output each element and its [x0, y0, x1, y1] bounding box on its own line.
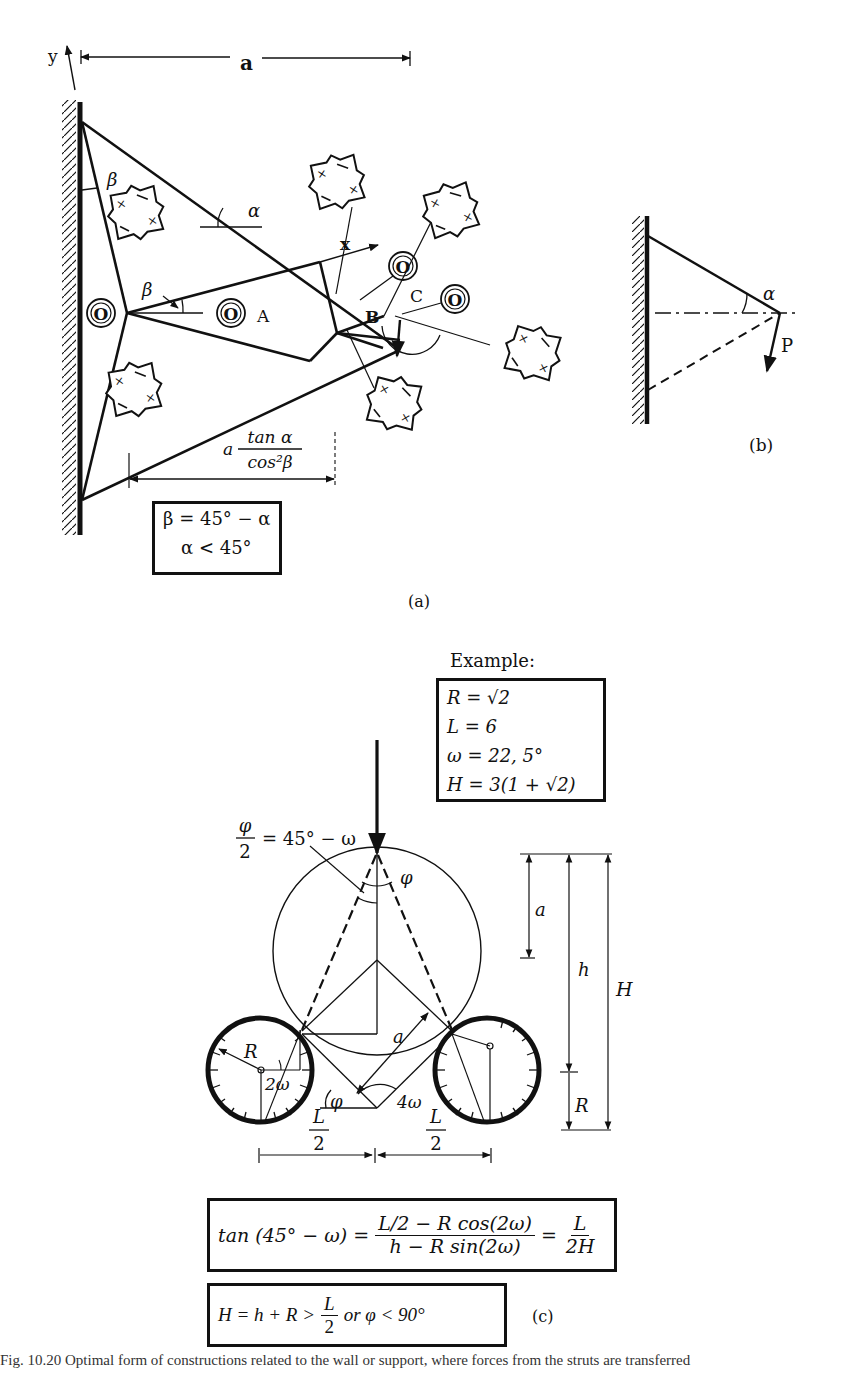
- dim-r-right: R: [574, 1095, 589, 1116]
- eq2-frac-num: L: [321, 1293, 338, 1316]
- dashed-line-left: [302, 855, 376, 1030]
- half-l-left-num: L: [312, 1106, 325, 1127]
- y-axis-arrow: [67, 46, 75, 90]
- wall-hatch-a: [62, 100, 76, 535]
- example-omega: ω = 22, 5°: [447, 745, 603, 774]
- half-angle-den: 2: [239, 841, 250, 862]
- construction-lines: [302, 853, 452, 1108]
- y-axis-label: y: [47, 46, 58, 66]
- node-o-mid: O: [217, 299, 245, 327]
- half-l-left-den: 2: [313, 1133, 324, 1154]
- equation-box-2: H = h + R > L 2 or φ < 90°: [207, 1283, 507, 1347]
- region-c-label: C: [410, 286, 423, 306]
- eq2-rhs: or φ < 90°: [344, 1304, 425, 1326]
- eq1-rhs-fraction: L 2H: [563, 1213, 598, 1258]
- small-circle-right: [435, 1018, 539, 1122]
- dimension-a-label: a: [240, 51, 253, 75]
- radius-r-label: R: [243, 1041, 258, 1062]
- small-circle-left: [208, 1018, 312, 1122]
- half-l-right-den: 2: [430, 1133, 441, 1154]
- eq1-rhs-num: L: [571, 1213, 590, 1236]
- eq1-mid-num: L/2 − R cos(2ω): [375, 1213, 535, 1236]
- example-title: Example:: [450, 650, 535, 671]
- eq1-lhs: tan (45° − ω) =: [218, 1224, 369, 1246]
- force-arrow-p: [767, 313, 780, 371]
- svg-text:O: O: [94, 304, 109, 324]
- angle-beta-mid: β: [141, 279, 152, 300]
- cross-node-2: [304, 150, 370, 214]
- panel-label-b: (b): [749, 435, 773, 455]
- angle-alpha-a: α: [248, 200, 260, 221]
- force-p-label: P: [781, 335, 793, 356]
- half-angle-num: φ: [239, 815, 252, 836]
- svg-text:O: O: [448, 290, 463, 310]
- eq1-rhs-den: 2H: [563, 1236, 598, 1258]
- panel-label-a: (a): [408, 592, 430, 611]
- eq2-lhs: H = h + R >: [218, 1304, 315, 1326]
- example-l: L = 6: [447, 716, 603, 745]
- strut-b-lower-dashed: [648, 313, 780, 390]
- dim-bottom-den: cos²β: [247, 452, 292, 472]
- figure-a: y a x α β: [47, 46, 568, 535]
- dim-bottom-coef: a: [223, 439, 233, 459]
- figure-canvas: × × y a: [0, 0, 850, 1377]
- angle-4w-label: 4ω: [396, 1092, 422, 1112]
- condition-2: α < 45°: [163, 537, 279, 558]
- dim-big-h: H: [615, 978, 633, 1000]
- dashed-line-right: [378, 855, 452, 1030]
- angle-alpha-b: α: [763, 283, 775, 304]
- figure-b: α P (b): [632, 216, 800, 455]
- eq1-equals: =: [541, 1224, 557, 1246]
- cross-node-4: [102, 358, 167, 421]
- angle-beta-top: β: [106, 169, 117, 190]
- dim-a-right: a: [535, 899, 546, 920]
- condition-1: β = 45° − α: [163, 508, 279, 529]
- eq1-mid-den: h − R sin(2ω): [387, 1236, 524, 1258]
- svg-text:O: O: [224, 304, 239, 324]
- panel-label-c: (c): [532, 1307, 553, 1326]
- eq2-fraction: L 2: [321, 1293, 338, 1338]
- cross-node-5: [498, 319, 568, 388]
- region-a-label: A: [256, 306, 270, 326]
- equation-box-1: tan (45° − ω) = L/2 − R cos(2ω) h − R si…: [207, 1198, 617, 1272]
- example-r: R = √2: [447, 687, 603, 716]
- half-angle-rhs: = 45° − ω: [262, 828, 356, 849]
- angle-2w-label: 2ω: [264, 1074, 290, 1094]
- figure-caption: Fig. 10.20 Optimal form of constructions…: [0, 1352, 850, 1369]
- node-o-right: O: [441, 285, 469, 313]
- dim-a-diagonal: a: [393, 1026, 404, 1047]
- node-o-left: O: [87, 299, 115, 327]
- half-l-right-num: L: [429, 1106, 442, 1127]
- strut-b-upper: [648, 236, 780, 313]
- dim-bottom-num: tan α: [248, 427, 293, 447]
- angle-phi-bottom: φ: [330, 1091, 343, 1112]
- eq1-middle-fraction: L/2 − R cos(2ω) h − R sin(2ω): [375, 1213, 535, 1258]
- region-b-label: B: [365, 307, 379, 327]
- example-box: R = √2 L = 6 ω = 22, 5° H = 3(1 + √2): [436, 678, 606, 802]
- condition-box-a: β = 45° − α α < 45°: [152, 501, 282, 575]
- node-o-right-upper: O: [389, 252, 417, 280]
- cross-node-3: [416, 177, 484, 244]
- eq2-frac-den: 2: [322, 1316, 338, 1338]
- dim-h: h: [578, 959, 590, 980]
- cross-node-1: [104, 181, 169, 244]
- example-h: H = 3(1 + √2): [447, 774, 603, 803]
- angle-phi-top: φ: [400, 867, 413, 888]
